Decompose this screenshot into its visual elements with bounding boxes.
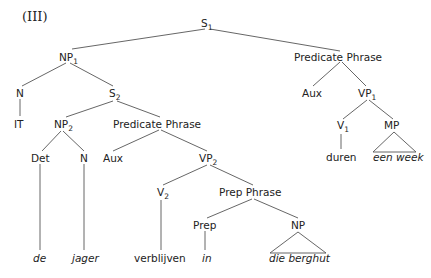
edge-vp1-mp (369, 100, 393, 119)
edge-predphrase-aux (313, 62, 340, 86)
node-np: NP (291, 219, 305, 231)
edge-np2-det (42, 131, 61, 151)
node-np1: NP1 (59, 51, 78, 66)
node-predicate-phrase-mid: Predicate Phrase (113, 118, 201, 130)
node-n-top: N (16, 87, 24, 99)
edge-s2-np2 (66, 101, 113, 117)
edge-np1-s2 (70, 63, 113, 86)
leaf-die-berghut: die berghut (269, 252, 331, 264)
node-aux-top: Aux (302, 87, 322, 99)
edge-s1-predphrase (210, 29, 340, 51)
leaf-jager: jager (70, 252, 99, 264)
node-s2: S2 (109, 87, 121, 102)
edge-vp1-v1 (343, 100, 367, 119)
node-vp2: VP2 (199, 152, 218, 167)
edge-prepphrase-np (254, 199, 298, 218)
leaf-duren: duren (326, 151, 357, 163)
edge-predphrase2-aux (113, 130, 159, 151)
triangle-np (270, 232, 326, 253)
diagram-label: (III) (22, 9, 48, 24)
node-n-mid: N (80, 152, 88, 164)
edge-np2-n (63, 131, 84, 151)
node-mp: MP (384, 119, 399, 131)
node-prep-phrase: Prep Phrase (219, 186, 281, 198)
triangle-mp (373, 132, 416, 152)
leaf-verblijven: verblijven (134, 252, 186, 264)
node-v2: V2 (157, 186, 169, 201)
leaf-een-week: een week (373, 151, 424, 163)
edge-np1-n (22, 63, 66, 86)
edge-s2-predphrase2 (117, 101, 160, 117)
node-vp1: VP1 (358, 87, 377, 102)
node-aux-mid: Aux (103, 152, 123, 164)
node-np2: NP2 (54, 118, 73, 133)
edge-vp2-v2 (163, 165, 207, 185)
edge-prepphrase-prep (207, 199, 252, 218)
leaf-in: in (202, 252, 212, 264)
syntax-tree-diagram: (III) (0, 0, 431, 278)
node-prep: Prep (193, 219, 217, 231)
leaf-it: IT (14, 118, 24, 130)
edge-predphrase2-vp2 (161, 130, 207, 151)
node-predicate-phrase-top: Predicate Phrase (294, 51, 382, 63)
node-v1: V1 (337, 119, 349, 134)
leaf-de: de (33, 252, 46, 264)
node-det: Det (31, 152, 50, 164)
edge-predphrase-vp1 (342, 62, 366, 86)
edge-vp2-prepphrase (210, 165, 253, 185)
edge-s1-np1 (72, 29, 205, 49)
